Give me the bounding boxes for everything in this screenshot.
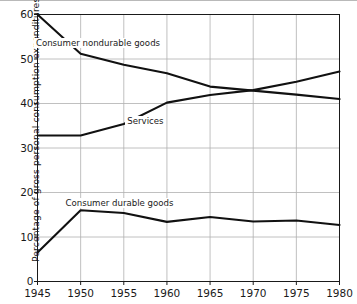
x-tick-label-1980: 1980 <box>320 288 357 299</box>
chart-page: Percentage of gross personal consumption… <box>0 0 357 304</box>
series-line-2 <box>38 210 340 252</box>
x-tick-label-1965: 1965 <box>190 288 230 299</box>
series-lines-group <box>38 15 340 253</box>
x-tick-label-1970: 1970 <box>233 288 273 299</box>
x-tick-label-1960: 1960 <box>147 288 187 299</box>
y-tick-label-40: 40 <box>10 98 34 109</box>
tick-marks-group <box>34 15 340 286</box>
x-tick-label-1950: 1950 <box>61 288 101 299</box>
series-line-0 <box>38 15 340 100</box>
x-tick-label-1945: 1945 <box>18 288 58 299</box>
y-tick-label-60: 60 <box>10 9 34 20</box>
x-tick-label-1955: 1955 <box>104 288 144 299</box>
y-tick-label-30: 30 <box>10 143 34 154</box>
series-annotation-nondurable: Consumer nondurable goods <box>34 38 162 48</box>
series-annotation-durable: Consumer durable goods <box>63 198 175 208</box>
series-annotation-services: Services <box>125 116 165 126</box>
y-tick-label-0: 0 <box>10 276 34 287</box>
y-tick-label-20: 20 <box>10 187 34 198</box>
x-tick-label-1975: 1975 <box>276 288 316 299</box>
line-chart-figure: Percentage of gross personal consumption… <box>0 0 357 304</box>
y-tick-label-10: 10 <box>10 232 34 243</box>
y-tick-label-50: 50 <box>10 54 34 65</box>
